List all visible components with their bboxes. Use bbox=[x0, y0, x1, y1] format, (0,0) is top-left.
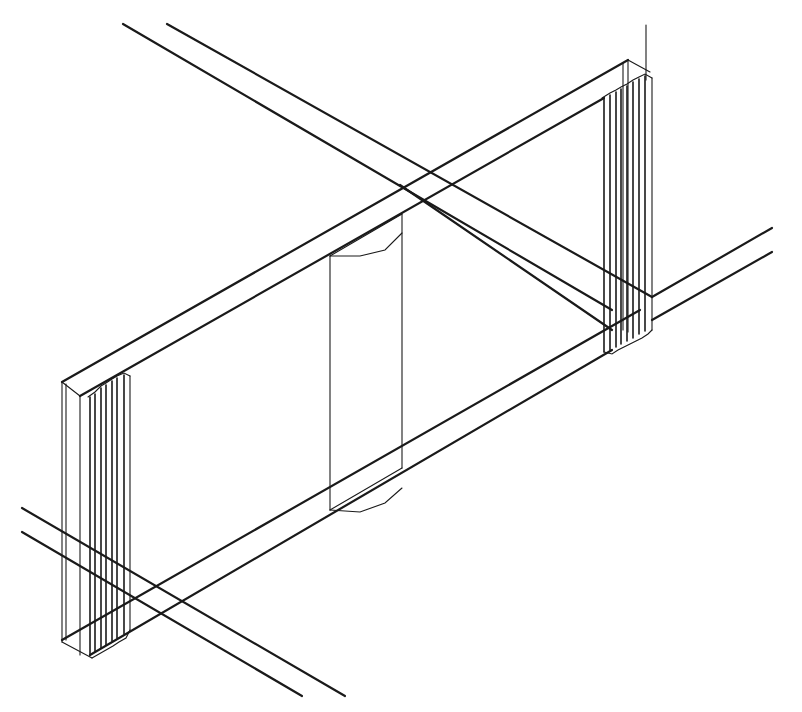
back-crossing-rebars bbox=[123, 24, 652, 330]
beam-bottom bbox=[62, 310, 640, 655]
wireframe-drawing bbox=[0, 0, 802, 712]
right-column bbox=[602, 25, 652, 354]
front-crossing-rebars bbox=[22, 508, 345, 696]
beam-top bbox=[62, 60, 650, 396]
right-transverse-rebars bbox=[652, 228, 772, 320]
left-column bbox=[62, 373, 130, 658]
